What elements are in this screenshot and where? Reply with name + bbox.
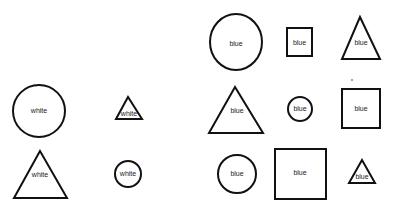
shape-label: white (30, 107, 47, 114)
stray-dot (351, 79, 353, 81)
blue-large-circle: blue (210, 14, 262, 70)
shape-label: blue (293, 39, 306, 46)
shape-label: blue (355, 173, 368, 180)
shape-label: white (119, 170, 136, 177)
blue-small-triangle: blue (349, 160, 375, 183)
blue-small-square: blue (287, 28, 312, 56)
right-group: blue blue blue blue blue blue blue (209, 14, 380, 199)
shape-label: white (31, 171, 48, 178)
shape-label: blue (230, 107, 243, 114)
blue-large-triangle: blue (209, 87, 263, 133)
shape-label: blue (293, 105, 306, 112)
shape-label: blue (230, 170, 243, 177)
shape-label: blue (354, 39, 367, 46)
shape-label: blue (293, 169, 306, 176)
shapes-diagram: white white white white blue blue blue (0, 0, 394, 210)
left-group: white white white white (13, 85, 142, 198)
shape-label: blue (229, 40, 242, 47)
blue-medium-triangle: blue (342, 17, 380, 59)
shape-label: white (120, 110, 137, 117)
white-large-triangle: white (14, 151, 67, 198)
white-large-circle: white (13, 85, 65, 137)
blue-medium-circle: blue (218, 155, 256, 193)
blue-large-square: blue (275, 149, 326, 199)
blue-medium-square: blue (342, 89, 380, 128)
white-small-triangle: white (116, 97, 142, 119)
shape-label: blue (354, 105, 367, 112)
white-small-circle: white (115, 161, 141, 187)
blue-small-circle: blue (288, 97, 312, 121)
